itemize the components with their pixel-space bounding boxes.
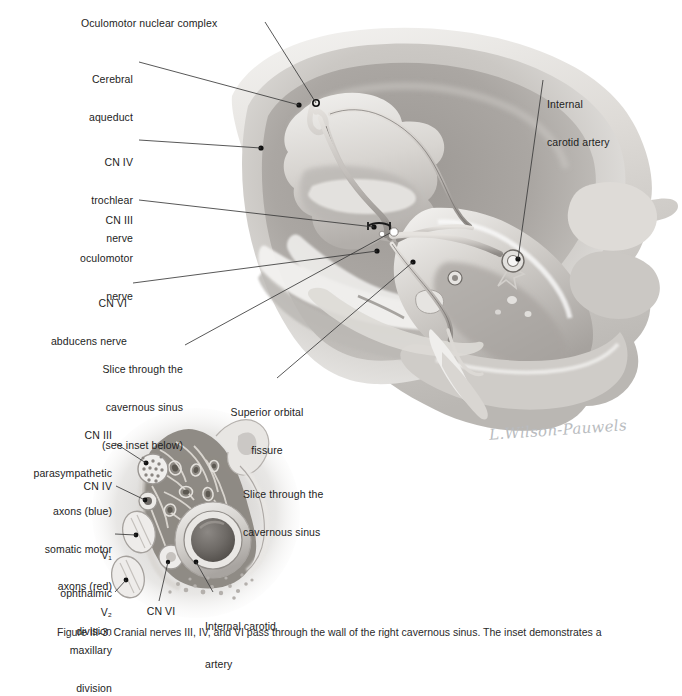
label-oculomotor-nuclear-complex: Oculomotor nuclear complex bbox=[81, 17, 266, 30]
ica-small-section-lumen bbox=[452, 275, 458, 281]
label-v1-line1: V₁ bbox=[18, 549, 112, 562]
mastoid-region bbox=[568, 182, 657, 251]
label-internal-carotid-artery-line2: carotid artery bbox=[547, 136, 672, 149]
label-slice-line2: cavernous sinus bbox=[243, 526, 373, 539]
label-v2-line2: maxillary bbox=[18, 644, 112, 657]
label-slice-through-cavernous-sinus: Slice through the cavernous sinus bbox=[243, 463, 373, 564]
label-sof-line2: fissure bbox=[213, 444, 321, 457]
label-cn-vi-line1: CN VI bbox=[20, 297, 127, 310]
label-cn-iv-inset: CN IV bbox=[40, 480, 112, 493]
internal-carotid-artery-inset-figure bbox=[175, 502, 251, 578]
cn-iv-fascicle bbox=[139, 492, 157, 510]
label-internal-carotid-artery: Internal carotid artery bbox=[547, 73, 672, 174]
label-ica-inset-line2: artery bbox=[205, 658, 315, 671]
label-cn-vi-inset: CN VI bbox=[135, 605, 187, 618]
label-cn-iv-line1: CN IV bbox=[20, 156, 133, 169]
label-v2-line1: V₂ bbox=[18, 606, 112, 619]
label-cerebral-aqueduct-line1: Cerebral bbox=[28, 73, 133, 86]
petrous-foramen-2 bbox=[525, 311, 532, 317]
slice-inset-dot bbox=[390, 228, 398, 236]
label-cn-iii-line1: CN III bbox=[20, 214, 133, 227]
label-internal-carotid-artery-inset: Internal carotid artery bbox=[205, 595, 315, 696]
label-cn-iii-axons-line1: CN III bbox=[10, 429, 112, 442]
label-v2-line3: division bbox=[18, 682, 112, 695]
figure-caption: Figure III-3. Cranial nerves III, IV, an… bbox=[57, 626, 677, 639]
label-cn-iii-line2: oculomotor bbox=[20, 252, 133, 265]
label-sof-line1: Superior orbital bbox=[213, 406, 321, 419]
internal-acoustic-pore bbox=[507, 296, 517, 304]
label-cn-iii-axons-line2: parasympathetic bbox=[10, 467, 112, 480]
label-internal-carotid-artery-line1: Internal bbox=[547, 98, 672, 111]
label-cerebral-aqueduct-line2: aqueduct bbox=[28, 111, 133, 124]
label-cn-iii-axons-line3: axons (blue) bbox=[10, 505, 112, 518]
label-slice-line1: Slice through the bbox=[243, 488, 373, 501]
petrous-foramen-3 bbox=[495, 309, 501, 314]
ica-inset-lumen bbox=[191, 518, 235, 562]
label-slice-inset-line1: Slice through the bbox=[60, 363, 183, 376]
